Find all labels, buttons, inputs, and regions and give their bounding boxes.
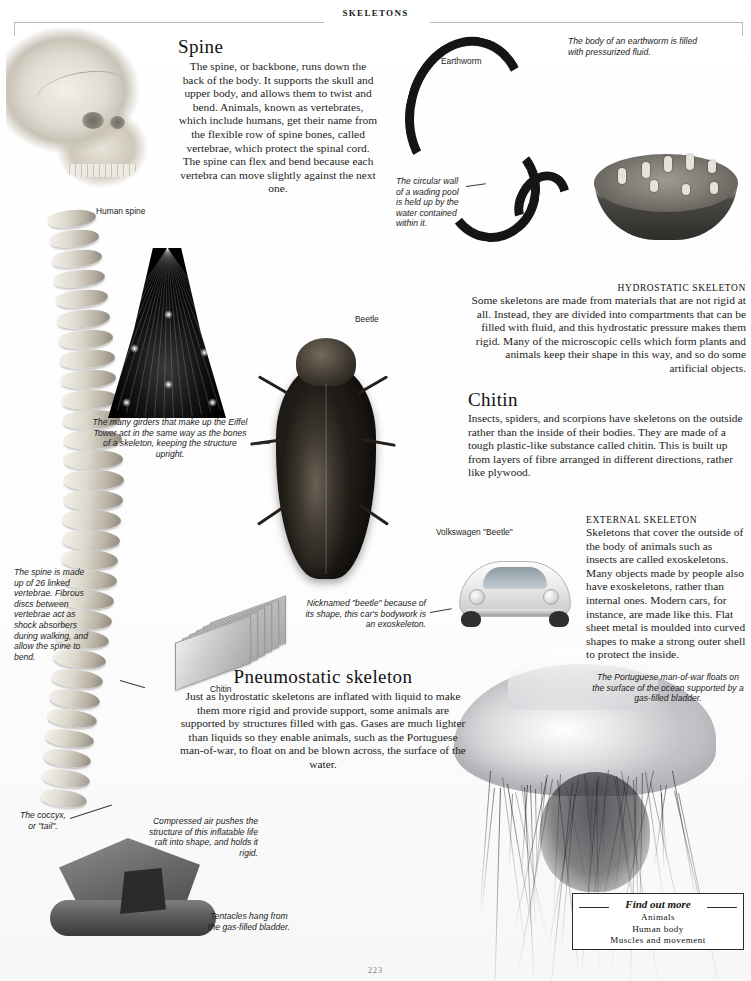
folio-number: 223 <box>0 966 751 975</box>
human-spine-photo <box>48 210 134 820</box>
raft-entrance <box>120 868 166 914</box>
man-of-war-tentacle <box>653 785 667 869</box>
tower-girder <box>163 248 168 418</box>
header-rule-left <box>14 22 324 23</box>
vertebra <box>51 247 103 270</box>
vertebra <box>58 327 113 350</box>
chitin-layer <box>203 599 279 675</box>
tower-girder <box>167 248 229 407</box>
car-tyre-right <box>549 611 569 627</box>
pool-wall <box>594 178 738 240</box>
tower-girder <box>90 248 168 400</box>
man-of-war-tentacle <box>614 776 630 897</box>
eiffel-tower-photo <box>108 248 226 418</box>
beetle-photo <box>262 318 390 588</box>
man-of-war-tentacle <box>494 788 501 981</box>
tower-girder <box>167 248 211 413</box>
find-out-more-item-muscles[interactable]: Muscles and movement <box>573 935 743 947</box>
section-external-body: Skeletons that cover the outside of the … <box>586 526 746 662</box>
vertebra <box>64 490 123 510</box>
man-of-war-tentacle <box>515 774 548 925</box>
tower-lamp <box>136 276 145 285</box>
human-skull-photo <box>6 28 176 218</box>
chitin-layer <box>210 595 286 671</box>
man-of-war-tentacle <box>678 793 720 981</box>
leader-line-spine <box>120 680 145 688</box>
car-headlamp-right <box>543 589 559 605</box>
section-pneumostatic-body: Just as hydrostatic skeletons are inflat… <box>178 690 468 772</box>
tower-lamp <box>192 278 201 287</box>
vertebra <box>62 388 120 410</box>
vertebra <box>46 727 96 750</box>
section-hydrostatic-heading: HYDROSTATIC SKELETON <box>470 283 746 293</box>
tower-girder <box>167 248 220 410</box>
vertebra <box>48 707 99 730</box>
section-chitin-heading: Chitin <box>468 389 748 411</box>
section-external-heading: EXTERNAL SKELETON <box>586 515 746 525</box>
section-pneumostatic: Pneumostatic skeleton Just as hydrostati… <box>178 666 468 772</box>
find-out-more-box: Find out more Animals Human body Muscles… <box>572 893 744 950</box>
section-spine-body: The spine, or backbone, runs down the ba… <box>178 60 378 196</box>
label-vw-beetle: Volkswagen "Beetle" <box>436 527 513 537</box>
man-of-war-tentacle <box>553 774 561 914</box>
vertebra <box>57 307 111 330</box>
car-bodyshell <box>459 561 571 617</box>
car-headlamp-left <box>469 589 485 605</box>
caption-man-of-war: The Portuguese man-of-war floats on the … <box>592 672 744 704</box>
man-of-war-tentacle <box>645 772 664 901</box>
tower-girder <box>74 248 168 391</box>
find-out-more-rule-right <box>707 907 737 908</box>
vertebra <box>42 767 90 789</box>
car-tyre-left <box>461 611 481 627</box>
tower-girder <box>135 248 168 415</box>
man-of-war-tentacle <box>530 785 536 926</box>
tower-lamp <box>122 398 131 407</box>
caption-eiffel-tower: The many girders that make up the Eiffel… <box>90 417 250 459</box>
tower-girder <box>145 248 168 417</box>
wading-pool-photo <box>590 152 742 252</box>
man-of-war-tentacle <box>524 787 535 979</box>
man-of-war-tentacle <box>480 771 491 906</box>
leader-line-eiffel <box>252 443 270 445</box>
tower-girder <box>167 248 255 395</box>
man-of-war-tentacle <box>517 779 553 974</box>
man-of-war-tentacle <box>550 782 573 981</box>
skull-suture-line <box>34 67 128 116</box>
label-beetle: Beetle <box>355 314 379 324</box>
caption-spine-vertebrae: The spine is made up of 26 linked verteb… <box>14 567 94 662</box>
man-of-war-tentacle <box>502 777 526 949</box>
man-of-war-tentacle <box>507 784 534 932</box>
tower-lamp <box>164 380 173 389</box>
find-out-more-item-animals[interactable]: Animals <box>573 912 743 924</box>
caption-wading-pool: The circular wall of a wading pool is he… <box>396 176 466 229</box>
tower-girder <box>167 248 263 389</box>
man-of-war-tentacle <box>535 789 538 877</box>
tower-girder <box>82 248 168 396</box>
vertebra <box>49 227 100 250</box>
tower-girder <box>167 248 238 403</box>
tower-girder <box>167 248 174 418</box>
section-hydrostatic-body: Some skeletons are made from materials t… <box>470 294 746 376</box>
tower-lamp <box>208 398 217 407</box>
beetle-head <box>296 338 356 386</box>
header-corner-left <box>14 22 15 36</box>
section-external: EXTERNAL SKELETON Skeletons that cover t… <box>586 515 746 662</box>
leader-line-coccyx <box>70 804 112 819</box>
label-earthworm: Earthworm <box>441 56 482 66</box>
skull-eye-socket <box>82 112 104 129</box>
tower-lamp <box>200 348 209 357</box>
label-chitin: Chitin <box>210 684 231 694</box>
find-out-more-item-human-body[interactable]: Human body <box>573 924 743 936</box>
section-chitin: Chitin Insects, spiders, and scorpions h… <box>468 389 748 480</box>
man-of-war-tentacle <box>566 787 593 911</box>
tower-girder <box>108 248 168 408</box>
encyclopedia-page: SKELETONS <box>0 0 751 981</box>
section-spine-heading: Spine <box>178 36 378 58</box>
vertebra <box>61 368 118 391</box>
tower-girder <box>167 248 202 415</box>
tower-girder <box>167 248 183 417</box>
vertebra <box>62 529 120 550</box>
caption-life-raft: Compressed air pushes the structure of t… <box>136 816 258 858</box>
find-out-more-rule-left <box>579 907 609 908</box>
man-of-war-tentacle <box>661 793 665 869</box>
